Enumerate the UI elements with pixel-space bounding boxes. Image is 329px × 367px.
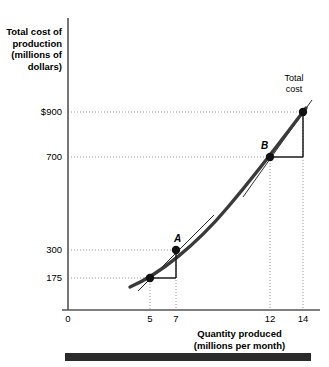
data-point-a-7-300 (172, 246, 180, 254)
tangent-lines (138, 100, 312, 291)
data-points (146, 108, 307, 282)
y-axis-title: Total cost of production (millions of do… (0, 26, 62, 72)
y-tick-label-175: 175 (20, 272, 62, 283)
y-axis-title-line3: (millions of (0, 49, 62, 61)
y-tick-label-900: $900 (20, 106, 62, 117)
x-tick-label-12: 12 (258, 313, 282, 324)
y-axis-title-line4: dollars) (0, 61, 62, 73)
y-axis-title-line1: Total cost of (0, 26, 62, 38)
series-label-line2: cost (268, 84, 320, 95)
x-tick-label-14: 14 (291, 313, 315, 324)
chart-figure: Total cost of production (millions of do… (0, 0, 329, 367)
data-point-5-175 (146, 274, 154, 282)
data-point-b-12-700 (266, 153, 274, 161)
x-axis-title-line2: (millions per month) (150, 340, 329, 352)
series-label-line1: Total (268, 73, 320, 84)
point-label-b: B (261, 140, 268, 151)
x-tick-label-0: 0 (56, 313, 80, 324)
axes (62, 18, 320, 310)
x-tick-label-7: 7 (164, 313, 188, 324)
x-tick-label-5: 5 (138, 313, 162, 324)
y-tick-label-300: 300 (20, 244, 62, 255)
data-point-14-900 (299, 108, 307, 116)
total-cost-curve (130, 108, 306, 287)
x-axis-title-line1: Quantity produced (150, 328, 329, 340)
y-axis-title-line2: production (0, 38, 62, 50)
y-tick-label-700: 700 (20, 151, 62, 162)
point-label-a: A (174, 233, 181, 244)
series-label-total-cost: Total cost (268, 73, 320, 95)
x-axis-title: Quantity produced (millions per month) (150, 328, 329, 352)
bottom-divider-bar (65, 353, 311, 361)
